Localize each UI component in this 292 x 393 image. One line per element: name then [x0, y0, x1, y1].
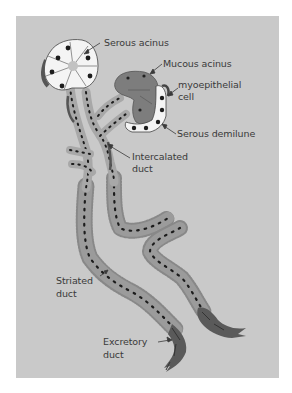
- excretory-duct-right: [197, 308, 246, 338]
- striated-duct-right: [150, 228, 204, 312]
- label-mucous-acinus: Mucous acinus: [163, 58, 232, 69]
- salivary-gland-diagram: [0, 0, 292, 393]
- label-serous-acinus: Serous acinus: [104, 37, 169, 48]
- serous-acinus: [43, 40, 98, 91]
- striated-duct-middle: [114, 178, 168, 231]
- label-excretory-duct-line1: Excretory: [103, 336, 147, 347]
- intercalated-ducts: [67, 86, 126, 188]
- label-excretory-duct-line2: duct: [103, 349, 124, 360]
- label-intercalated-duct-line2: duct: [132, 163, 153, 174]
- label-striated-duct-line2: duct: [56, 288, 77, 299]
- label-myoepithelial-cell-line2: cell: [178, 91, 194, 102]
- label-intercalated-duct-line1: Intercalated: [132, 151, 188, 162]
- label-myoepithelial-cell-line1: myoepithelial: [178, 79, 241, 90]
- label-striated-duct-line1: Striated: [56, 275, 93, 286]
- label-serous-demilune: Serous demilune: [177, 128, 255, 139]
